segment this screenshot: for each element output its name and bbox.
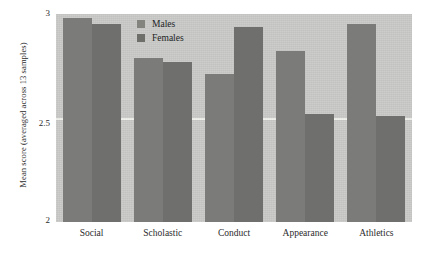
legend-label-females: Females xyxy=(152,33,184,44)
bar-scholastic-females[interactable] xyxy=(163,62,192,222)
legend-swatch-male-icon xyxy=(137,20,145,28)
y-axis-tick-labels: 3 2.5 2 xyxy=(22,0,50,263)
legend-item-males[interactable]: Males xyxy=(137,18,184,30)
plot-area xyxy=(56,14,412,222)
x-tick-conduct: Conduct xyxy=(198,228,269,238)
bar-chart: Mean score (averaged across 13 samples) … xyxy=(0,0,424,263)
legend: Males Females xyxy=(137,18,184,46)
bar-group-athletics xyxy=(341,14,412,222)
legend-label-males: Males xyxy=(152,19,175,30)
bar-athletics-females[interactable] xyxy=(376,116,405,222)
x-tick-social: Social xyxy=(56,228,127,238)
bar-group-conduct xyxy=(198,14,269,222)
x-tick-scholastic: Scholastic xyxy=(127,228,198,238)
legend-item-females[interactable]: Females xyxy=(137,32,184,44)
bar-group-appearance xyxy=(270,14,341,222)
y-tick-2: 2 xyxy=(24,215,50,225)
y-tick-2-5: 2.5 xyxy=(24,118,50,128)
bar-appearance-males[interactable] xyxy=(276,51,305,222)
bar-conduct-males[interactable] xyxy=(205,74,234,222)
bar-groups xyxy=(56,14,412,222)
bar-group-social xyxy=(56,14,127,222)
bar-athletics-males[interactable] xyxy=(347,24,376,222)
x-tick-athletics: Athletics xyxy=(341,228,412,238)
x-tick-appearance: Appearance xyxy=(270,228,341,238)
y-tick-3: 3 xyxy=(24,8,50,18)
legend-swatch-female-icon xyxy=(137,34,145,42)
bar-appearance-females[interactable] xyxy=(305,114,334,222)
x-axis-tick-labels: Social Scholastic Conduct Appearance Ath… xyxy=(56,228,412,238)
bar-social-females[interactable] xyxy=(92,24,121,222)
bar-scholastic-males[interactable] xyxy=(134,58,163,222)
bar-conduct-females[interactable] xyxy=(234,27,263,223)
bar-social-males[interactable] xyxy=(63,18,92,222)
